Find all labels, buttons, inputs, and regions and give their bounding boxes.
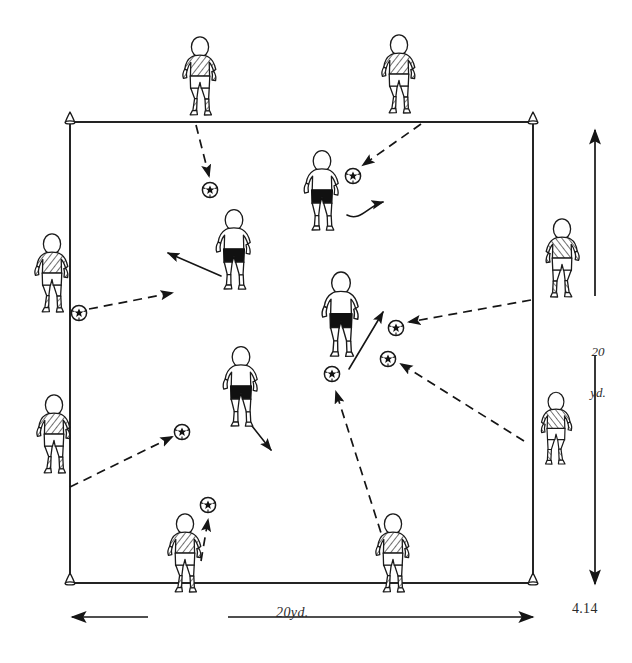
figure-number: 4.14 xyxy=(572,601,598,617)
run-arrow-inside-upper-right xyxy=(347,202,383,217)
soccer-drill-figure: 20yd. 20 yd. 4.14 xyxy=(0,0,632,663)
soccer-ball-icon-left-edge xyxy=(71,305,86,320)
pass-arrows xyxy=(70,124,531,561)
run-arrow-inside-lower-left xyxy=(252,426,271,450)
player-outside-bottom-right xyxy=(376,514,409,592)
soccer-ball-icon-center-low xyxy=(324,366,339,381)
pass-arrow-right-upper xyxy=(409,300,531,322)
cone-icon-top-right xyxy=(528,112,538,124)
grid-width-label: 20yd. xyxy=(276,605,309,621)
cone-icon-bottom-right xyxy=(528,573,538,585)
grid-height-label-line2: yd. xyxy=(583,386,613,400)
pass-arrow-bottom-left xyxy=(201,520,208,561)
soccer-ball-icon-upper-left xyxy=(202,182,217,197)
grid-height-label: 20 yd. xyxy=(583,318,613,427)
grid-outline xyxy=(70,122,533,583)
grid-height-label-line1: 20 xyxy=(583,345,613,359)
soccer-ball-icon-right-upper xyxy=(388,320,403,335)
run-arrow-inside-upper-left xyxy=(168,253,221,276)
player-outside-top-right xyxy=(382,35,415,113)
player-outside-right-upper xyxy=(546,219,579,297)
pass-arrow-top-left xyxy=(196,125,209,176)
player-inside-center xyxy=(322,272,358,356)
player-inside-lower-left xyxy=(223,347,257,427)
player-outside-left-upper xyxy=(35,234,68,312)
cone-icon-top-left xyxy=(65,112,75,124)
soccer-ball-icon-bottom-center xyxy=(200,497,215,512)
soccer-ball-icon-right-lower xyxy=(380,351,395,366)
figure-canvas xyxy=(0,0,632,663)
player-outside-top-left xyxy=(183,37,216,115)
soccer-ball-icon-left-mid xyxy=(174,424,189,439)
corner-cones xyxy=(65,112,538,585)
players-layer xyxy=(35,35,579,592)
run-arrow-inside-center xyxy=(349,312,383,369)
pass-arrow-left-upper xyxy=(89,293,172,309)
cone-icon-bottom-left xyxy=(65,573,75,585)
player-outside-bottom-left xyxy=(168,514,201,592)
player-inside-upper-left xyxy=(216,210,250,290)
player-outside-left-lower xyxy=(37,395,70,473)
soccer-ball-icon-upper-right xyxy=(345,168,360,183)
player-inside-upper-right xyxy=(304,151,338,231)
pass-arrow-top-right xyxy=(363,124,421,165)
pass-arrow-right-lower xyxy=(401,364,524,441)
pass-arrow-left-lower xyxy=(70,437,172,487)
player-outside-right-lower xyxy=(541,392,571,464)
